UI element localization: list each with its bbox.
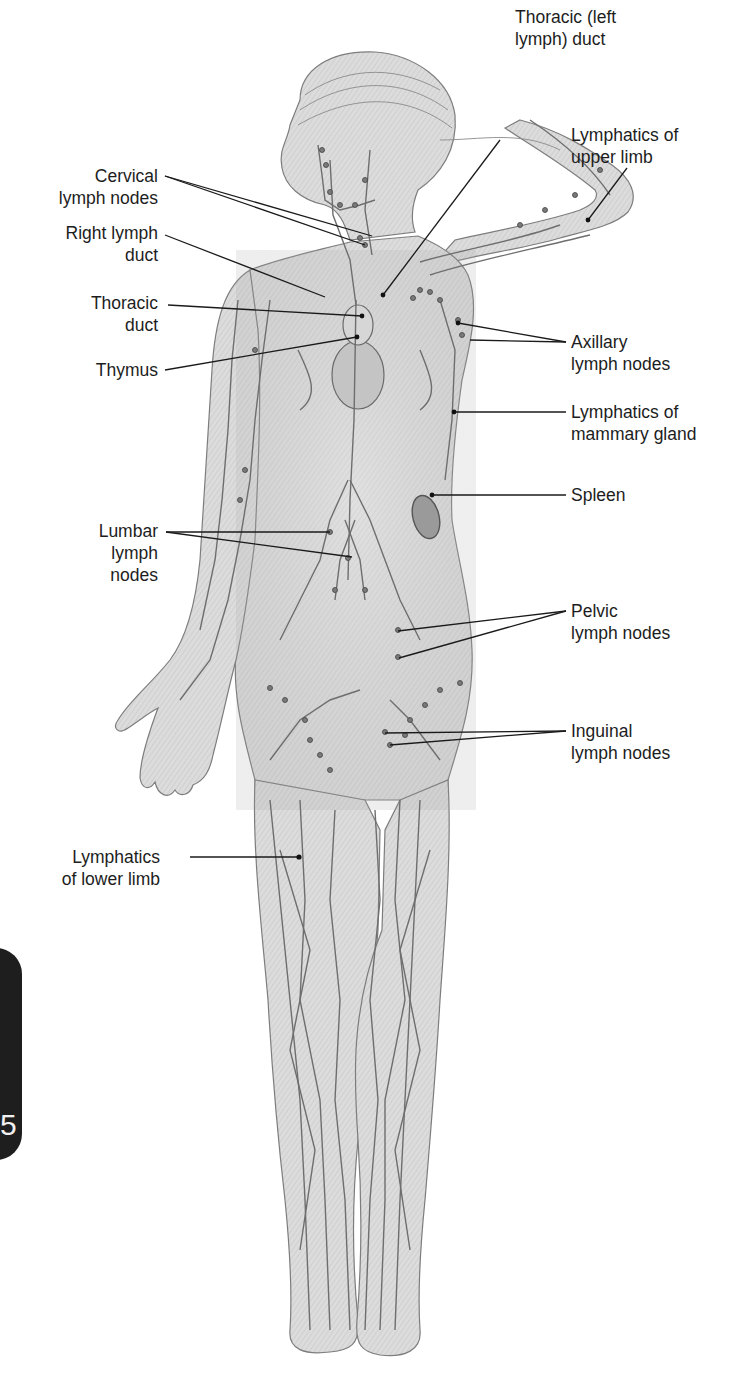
label-lumbar-lymph-nodes: Lumbar lymph nodes	[99, 520, 158, 586]
body-silhouette	[116, 52, 634, 1356]
label-cervical-lymph-nodes: Cervical lymph nodes	[59, 165, 158, 209]
lymphatic-system-diagram: Thoracic (left lymph) duct Lymphatics of…	[0, 0, 744, 1373]
label-axillary-lymph-nodes: Axillary lymph nodes	[571, 331, 670, 375]
label-thymus: Thymus	[96, 359, 158, 381]
label-inguinal-lymph-nodes: Inguinal lymph nodes	[571, 720, 670, 764]
label-thoracic-left-duct: Thoracic (left lymph) duct	[515, 6, 616, 50]
label-lymphatics-mammary-gland: Lymphatics of mammary gland	[571, 401, 696, 445]
chapter-number: 5	[0, 1108, 17, 1142]
label-lymphatics-lower-limb: Lymphatics of lower limb	[62, 846, 160, 890]
label-pelvic-lymph-nodes: Pelvic lymph nodes	[571, 600, 670, 644]
label-lymphatics-upper-limb: Lymphatics of upper limb	[571, 124, 678, 168]
label-spleen: Spleen	[571, 484, 626, 506]
leader-axillary-b	[470, 340, 566, 342]
label-right-lymph-duct: Right lymph duct	[66, 222, 158, 266]
heart	[332, 341, 384, 409]
label-thoracic-duct: Thoracic duct	[91, 292, 158, 336]
